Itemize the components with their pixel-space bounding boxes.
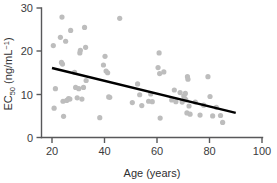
data-point — [82, 25, 87, 30]
data-point — [61, 114, 66, 119]
data-point — [78, 48, 83, 53]
data-point — [117, 16, 122, 21]
scatter-plot-figure: EC50 (ng/mL−1) 0 10 20 30 20 40 60 8 — [0, 0, 277, 183]
y-tick-label-10: 10 — [21, 89, 33, 101]
data-point — [51, 43, 56, 48]
data-point — [101, 62, 106, 67]
data-point — [130, 100, 135, 105]
data-point — [186, 103, 191, 108]
y-tick-label-30: 30 — [21, 2, 33, 14]
y-axis-ticks: 0 10 20 30 — [21, 2, 42, 144]
data-point — [161, 69, 166, 74]
data-point — [102, 54, 107, 59]
data-point — [84, 78, 89, 83]
data-point — [52, 106, 57, 111]
data-point — [76, 86, 81, 91]
x-axis-title: Age (years) — [124, 167, 181, 179]
y-axis-title: EC50 (ng/mL−1) — [2, 37, 18, 110]
data-point — [60, 62, 65, 67]
data-point — [75, 95, 80, 100]
y-axis-title-text: EC50 (ng/mL−1) — [2, 37, 18, 110]
data-point — [185, 77, 190, 82]
data-point — [59, 14, 64, 19]
data-point — [172, 87, 177, 92]
data-point — [157, 50, 162, 55]
data-point — [155, 65, 160, 70]
data-point — [197, 112, 202, 117]
data-point — [53, 86, 58, 91]
data-point — [187, 112, 192, 117]
y-tick-label-0: 0 — [27, 132, 33, 144]
data-point — [105, 70, 110, 75]
x-tick-label-20: 20 — [46, 145, 58, 157]
data-point — [183, 91, 188, 96]
plot-canvas: EC50 (ng/mL−1) 0 10 20 30 20 40 60 8 — [0, 0, 277, 183]
data-point — [207, 94, 212, 99]
data-point — [218, 113, 223, 118]
data-point — [68, 28, 73, 33]
x-tick-label-80: 80 — [203, 145, 215, 157]
x-tick-label-40: 40 — [98, 145, 110, 157]
data-point — [139, 103, 144, 108]
data-point — [107, 95, 112, 100]
data-points-layer — [51, 14, 226, 125]
data-point — [67, 96, 72, 101]
data-point — [210, 113, 215, 118]
data-point — [137, 92, 142, 97]
x-axis-ticks: 20 40 60 80 100 — [46, 138, 271, 158]
data-point — [150, 99, 155, 104]
data-point — [220, 120, 225, 125]
y-tick-label-20: 20 — [21, 45, 33, 57]
data-point — [81, 85, 86, 90]
data-point — [205, 74, 210, 79]
x-tick-label-60: 60 — [151, 145, 163, 157]
data-point — [135, 81, 140, 86]
data-point — [63, 39, 68, 44]
data-point — [83, 45, 88, 50]
x-tick-label-100: 100 — [253, 145, 271, 157]
data-point — [58, 35, 63, 40]
data-point — [158, 115, 163, 120]
data-point — [79, 96, 84, 101]
data-point — [97, 115, 102, 120]
